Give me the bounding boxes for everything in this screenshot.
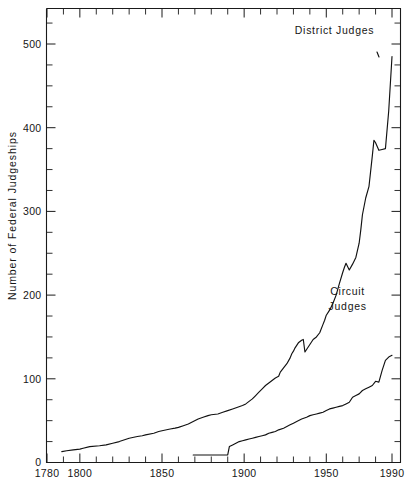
x-tick-label: 1950 — [314, 467, 339, 479]
chart-background — [0, 0, 415, 491]
y-tick-label: 400 — [23, 122, 41, 134]
figure-container: 0100200300400500 17801800185019001950199… — [0, 0, 415, 491]
x-tick-label: 1990 — [380, 467, 405, 479]
annotation-label: Judges — [329, 300, 367, 312]
y-tick-label: 100 — [23, 373, 41, 385]
annotation-label: Circuit — [330, 285, 365, 297]
judgeships-line-chart: 0100200300400500 17801800185019001950199… — [0, 0, 415, 491]
y-axis-title: Number of Federal Judgeships — [6, 131, 18, 300]
x-tick-label: 1800 — [68, 467, 93, 479]
x-tick-label: 1780 — [35, 467, 60, 479]
annotation-label: District Judges — [295, 24, 374, 36]
y-tick-label: 500 — [23, 38, 41, 50]
y-tick-label: 200 — [23, 289, 41, 301]
y-tick-label: 300 — [23, 205, 41, 217]
x-tick-label: 1850 — [150, 467, 175, 479]
x-tick-label: 1900 — [232, 467, 257, 479]
